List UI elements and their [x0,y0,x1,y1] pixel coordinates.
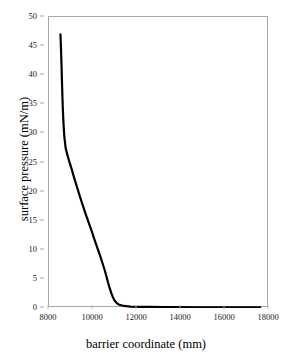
x-tick-label: 12000 [125,313,146,322]
y-tick-mark [40,74,44,75]
y-tick-mark [40,45,44,46]
x-tick-mark [180,305,181,309]
x-tick-label: 14000 [169,313,190,322]
y-tick-mark [40,219,44,220]
y-tick-mark [40,277,44,278]
x-tick-mark [224,305,225,309]
y-tick-mark [40,161,44,162]
x-axis-tick-labels: 80001000012000140001600018000 [48,310,268,324]
y-tick-mark [40,190,44,191]
plot-area [48,16,268,307]
y-axis-title: surface pressure (mN/m) [17,59,31,259]
plot-canvas [49,17,269,308]
chart-figure: 05101520253035404550 8000100001200014000… [0,0,292,364]
x-tick-mark [268,305,269,309]
y-tick-mark [40,248,44,249]
y-tick-mark [40,132,44,133]
x-tick-mark [92,305,93,309]
y-tick-mark [40,16,44,17]
x-tick-mark [48,305,49,309]
x-tick-label: 18000 [257,313,278,322]
y-tick-label: 0 [33,303,37,312]
x-tick-label: 8000 [40,313,57,322]
x-tick-label: 10000 [81,313,102,322]
y-tick-mark [40,103,44,104]
y-tick-mark [40,307,44,308]
x-tick-mark [136,305,137,309]
y-tick-label: 45 [29,41,38,50]
y-tick-label: 5 [33,273,37,282]
x-tick-label: 16000 [213,313,234,322]
x-axis-title: barrier coordinate (mm) [0,337,292,351]
y-tick-label: 50 [29,12,38,21]
data-series-line [60,34,260,307]
